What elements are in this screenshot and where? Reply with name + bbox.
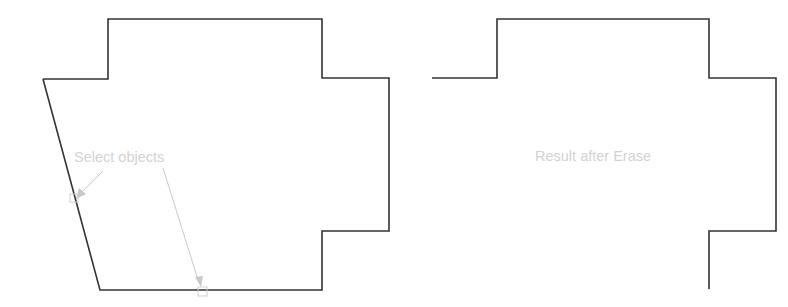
erase-diagram: Select objects Result after Erase [0, 0, 788, 307]
select-arrow-2 [163, 168, 207, 296]
arrowhead-icon [195, 276, 203, 287]
result-after-erase-label: Result after Erase [535, 148, 651, 164]
left-panel: Select objects [43, 19, 389, 296]
right-panel: Result after Erase [432, 19, 776, 289]
pickbox-icon [198, 287, 207, 296]
select-objects-label: Select objects [74, 149, 164, 165]
